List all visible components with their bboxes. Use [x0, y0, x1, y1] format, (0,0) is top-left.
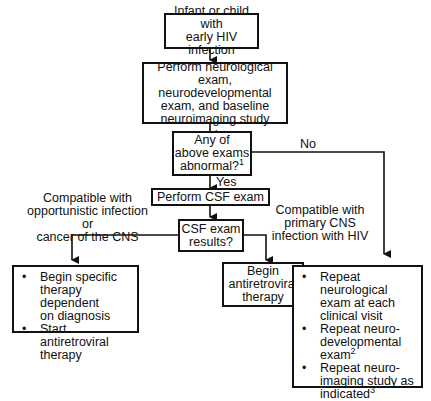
left-outcome-item: Start antiretroviral therapy	[20, 323, 131, 362]
decision-text-line: abnormal?1	[175, 160, 249, 173]
footnote-marker: 1	[239, 157, 244, 167]
left-outcome-item: Begin specific therapy dependent on diag…	[20, 271, 131, 323]
csf-exam-text: Perform CSF exam	[157, 191, 264, 204]
middle-outcome-text-line: therapy	[229, 291, 298, 304]
csf-results-text-line: CSF exam	[181, 223, 240, 236]
exam-text-line: neurodevelopmental	[144, 87, 286, 100]
csf-exam-box: Perform CSF exam	[151, 188, 270, 206]
exam-text-line: neuroimaging study	[144, 113, 286, 126]
start-text-line: early HIV infection	[166, 31, 257, 57]
exam-text-line: exam, and baseline	[144, 100, 286, 113]
decision-box: Any of above exams abnormal?1	[172, 131, 252, 176]
start-text-line: Infant or child with	[166, 5, 257, 31]
right-condition-label: Compatible with primary CNS infection wi…	[270, 204, 370, 243]
no-label: No	[300, 138, 316, 151]
start-box: Infant or child with early HIV infection	[164, 13, 259, 49]
csf-results-box: CSF exam results?	[178, 219, 244, 252]
right-outcome-item: Repeat neuro- developmental exam2	[300, 323, 415, 362]
right-outcome-item: Repeat neuro- imaging study as indicated…	[300, 362, 415, 401]
csf-results-text-line: results?	[181, 236, 240, 249]
exam-box: Perform neurological exam, neurodevelopm…	[142, 62, 288, 124]
right-outcome-box: Repeat neurological exam at each clinica…	[292, 265, 423, 388]
left-outcome-box: Begin specific therapy dependent on diag…	[12, 265, 139, 333]
left-condition-label: Compatible with opportunistic infection …	[20, 192, 155, 244]
exam-text-line: Perform neurological exam,	[144, 61, 286, 87]
footnote-marker: 2	[351, 346, 356, 356]
footnote-marker: 3	[370, 385, 375, 395]
right-outcome-item: Repeat neurological exam at each clinica…	[300, 271, 415, 323]
